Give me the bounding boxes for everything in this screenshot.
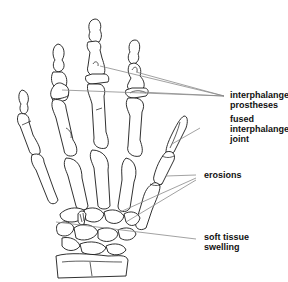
thumb xyxy=(136,116,188,230)
label-line: interphalangeal xyxy=(230,90,288,100)
ring-finger xyxy=(51,44,88,211)
label-fused-interphalangeal-joint: fused interphalangeal joint xyxy=(230,114,288,144)
label-line: interphalangeal xyxy=(230,124,288,134)
hand-diagram: interphalangeal prostheses fused interph… xyxy=(0,0,288,282)
label-line: prostheses xyxy=(230,100,288,110)
label-interphalangeal-prostheses: interphalangeal prostheses xyxy=(230,90,288,110)
label-line: swelling xyxy=(204,242,249,252)
label-line: erosions xyxy=(204,170,242,180)
label-soft-tissue-swelling: soft tissue swelling xyxy=(204,232,249,252)
index-finger xyxy=(118,40,148,212)
label-erosions: erosions xyxy=(204,170,242,180)
label-line: fused xyxy=(230,114,288,124)
middle-finger xyxy=(85,19,110,209)
label-line: soft tissue xyxy=(204,232,249,242)
label-line: joint xyxy=(230,134,288,144)
carpal-bones xyxy=(56,208,140,278)
